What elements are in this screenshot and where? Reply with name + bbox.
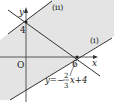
equation-prefix: y=− [44, 75, 64, 85]
equation-suffix: x+4 [70, 75, 87, 85]
equation-frac-num: 2 [64, 72, 68, 80]
shaded-region [0, 0, 114, 100]
x-axis-label: x [92, 58, 97, 68]
equation-frac-den: 3 [64, 82, 68, 90]
label-i: (i) [90, 36, 99, 45]
label-ii: (ii) [52, 3, 63, 12]
origin-label: O [17, 60, 24, 70]
y-axis-arrow [24, 7, 28, 13]
graph: y x O 4 6 (ii) (i) y=− 2 3 x+4 [0, 0, 114, 107]
tick-4: 4 [20, 25, 26, 35]
point-0-4 [25, 21, 28, 24]
y-axis-label: y [18, 7, 25, 17]
tick-6: 6 [72, 59, 78, 69]
